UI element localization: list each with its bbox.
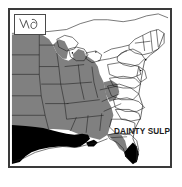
map-frame: DAINTY SULPHUR: [8, 8, 172, 168]
species-range-label: DAINTY SULPHUR: [114, 128, 172, 136]
range-map-figure: DAINTY SULPHUR: [0, 0, 182, 187]
corner-inset-sketch: [15, 15, 45, 34]
corner-inset-box: [14, 14, 46, 35]
